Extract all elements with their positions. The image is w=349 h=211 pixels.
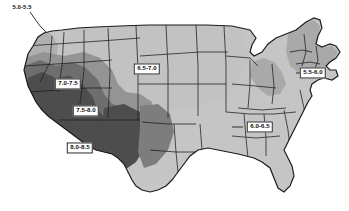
band-5.5-6.0 — [286, 20, 338, 74]
zone-label-6-5-7-0: 6.5-7.0 — [134, 63, 160, 74]
zone-label-8-0-8-5: 8.0-8.5 — [67, 142, 93, 153]
leader-line-5.0-5.5 — [30, 12, 46, 32]
map-base-layer — [0, 0, 349, 211]
zone-label-6-0-6-5: 6.0-6.5 — [247, 121, 273, 132]
zone-label-5-0-5-5: 5.0-5.5 — [12, 5, 31, 11]
us-solar-resource-map: 5.0-5.5 5.5-6.0 6.0-6.5 6.5-7.0 7.0-7.5 … — [0, 0, 349, 211]
zone-label-7-0-7-5: 7.0-7.5 — [55, 78, 81, 89]
zone-label-7-5-8-0: 7.5-8.0 — [73, 105, 99, 116]
zone-label-5-5-6-0: 5.5-6.0 — [300, 67, 326, 78]
map-graphic — [0, 0, 349, 211]
